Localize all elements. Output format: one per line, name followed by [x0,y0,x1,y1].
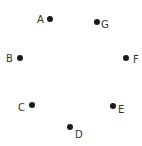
points-diagram: AGBFCED [0,0,142,146]
point-label: E [118,104,124,115]
point-dot [123,55,129,61]
point-c: C [18,102,35,113]
point-dot [29,102,35,108]
point-dot [94,19,100,25]
point-d: D [67,124,83,140]
point-dot [47,16,53,22]
point-label: D [75,129,83,140]
point-b: B [6,53,23,64]
point-g: G [94,19,109,30]
point-label: A [37,14,44,25]
points-svg: AGBFCED [0,0,142,146]
point-f: F [123,54,139,65]
point-dot [67,124,73,130]
point-e: E [110,103,124,115]
point-label: B [6,53,13,64]
point-dot [110,103,116,109]
point-dot [17,55,23,61]
point-label: C [18,102,25,113]
point-label: G [101,19,109,30]
point-label: F [133,54,139,65]
point-a: A [37,14,53,25]
